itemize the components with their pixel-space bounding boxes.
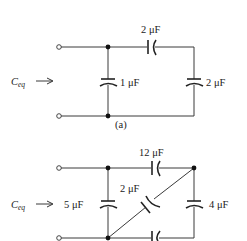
circuit-b: Ceq 12 μF 5 μF 2 μF 4 μF [11,147,229,241]
terminal-top [57,166,62,171]
terminal-bottom [57,114,62,119]
capacitor-left-b [100,201,117,208]
junction-dot [106,45,111,50]
cap-label-right-b: 4 μF [209,199,229,210]
capacitor-right-b [186,201,203,208]
cap-label-right-a: 2 μF [206,77,226,88]
capacitor-right-a [186,79,203,86]
circuit-diagrams: Ceq 2 μF 1 μF 2 μF (a) [0,0,247,241]
terminal-bottom [57,236,62,241]
capacitor-bottom-b [152,231,160,241]
junction-dot [106,166,111,171]
circuit-a: Ceq 2 μF 1 μF 2 μF (a) [11,24,226,131]
cap-label-top-a: 2 μF [141,24,161,35]
arrow-icon [36,201,53,207]
terminal-top [57,45,62,50]
ceq-label-b: Ceq [11,199,25,212]
arrow-icon [36,78,53,84]
capacitor-diagonal-b [141,196,160,213]
capacitor-top-b [152,161,160,176]
ceq-label-a: Ceq [11,76,25,89]
cap-label-top-b: 12 μF [139,147,164,158]
caption-a: (a) [115,119,127,131]
cap-label-left-b: 5 μF [64,199,84,210]
junction-dot [106,236,111,241]
cap-label-diagonal-b: 2 μF [120,183,140,194]
junction-dot [192,166,197,171]
cap-label-left-a: 1 μF [120,77,140,88]
junction-dot [106,114,111,119]
capacitor-left-a [100,79,117,86]
capacitor-top-a [148,40,156,55]
